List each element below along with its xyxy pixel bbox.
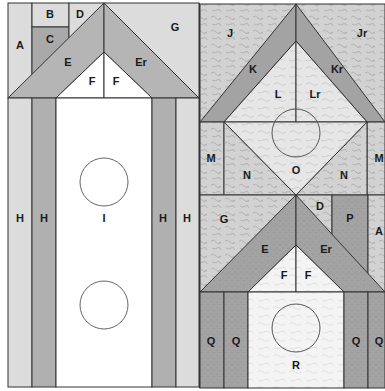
label-Jr: Jr [357,27,368,39]
quilt-diagram: A B C D G E Er F F H H I H H J Jr K Kr L… [0,0,385,391]
label-Er: Er [320,243,332,255]
label-O: O [292,164,301,176]
label-F-left: F [89,75,96,87]
label-Q-3: Q [352,335,361,347]
label-Er: Er [135,56,147,68]
piece-H-4 [176,98,199,387]
piece-H-3 [152,98,176,387]
label-E: E [64,56,71,68]
left-block: A B C D G E Er F F H H I H H [8,3,199,387]
label-H-2: H [40,212,48,224]
label-M-left: M [206,152,215,164]
label-J: J [227,27,233,39]
label-H-4: H [183,212,191,224]
label-K: K [249,63,257,75]
label-Q-4: Q [375,335,384,347]
label-B: B [46,8,54,20]
label-M-right: M [374,152,383,164]
piece-I [56,98,152,387]
label-Q-1: Q [207,335,216,347]
label-F-right: F [305,269,312,281]
right-bottom-block: G D P A E Er F F Q Q R Q Q [200,195,385,388]
label-H-1: H [16,212,24,224]
label-C: C [46,33,54,45]
label-N-right: N [340,169,348,181]
label-G: G [171,21,180,33]
label-Lr: Lr [310,88,322,100]
label-R: R [292,359,300,371]
label-G: G [220,213,229,225]
label-L: L [275,88,282,100]
piece-H-1 [8,98,32,387]
label-A: A [375,225,383,237]
label-Q-2: Q [232,335,241,347]
label-F-right: F [113,75,120,87]
label-H-3: H [159,212,167,224]
piece-H-2 [32,98,56,387]
label-D: D [316,200,324,212]
label-D: D [76,8,84,20]
label-A: A [16,39,24,51]
label-N-left: N [243,169,251,181]
label-I: I [102,212,105,224]
label-E: E [261,243,268,255]
label-Kr: Kr [331,63,344,75]
right-top-block: J Jr K Kr L Lr M M N O N [200,4,385,195]
piece-R [248,292,344,388]
label-P: P [346,212,353,224]
label-F-left: F [281,269,288,281]
